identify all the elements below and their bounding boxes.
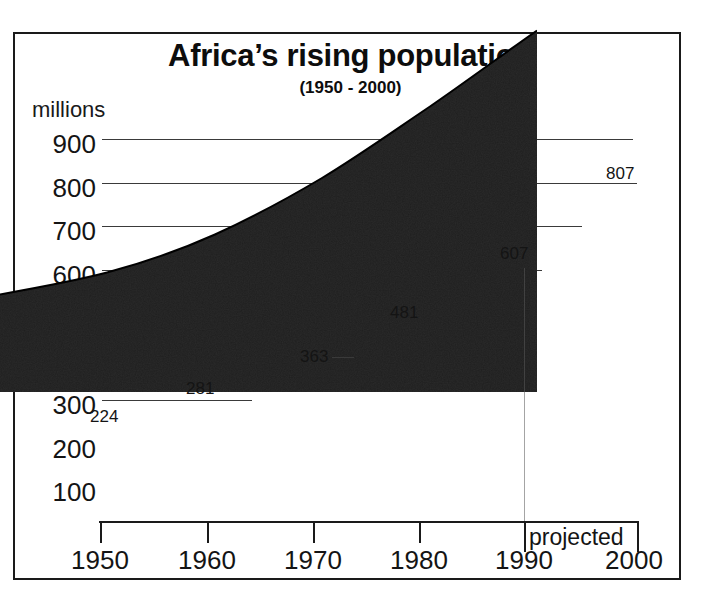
chart-figure: Africa’s rising population (1950 - 2000)… — [0, 0, 701, 602]
data-label-481: 481 — [390, 303, 418, 323]
x-tick-mark-1960 — [207, 523, 209, 543]
y-tick-label-100: 100 — [24, 477, 96, 508]
x-tick-mark-1950 — [100, 523, 102, 543]
data-label-807: 807 — [606, 164, 634, 184]
x-tick-mark-1980 — [419, 523, 421, 543]
data-label-363: 363 — [300, 347, 328, 367]
data-label-224: 224 — [90, 407, 118, 427]
population-area-series — [0, 0, 537, 392]
leader-line-363 — [332, 357, 354, 358]
x-tick-label-1990: 1990 — [464, 545, 584, 576]
y-tick-label-200: 200 — [24, 434, 96, 465]
x-tick-label-2000: 2000 — [574, 545, 694, 576]
area-grain-texture — [0, 31, 537, 393]
data-label-281: 281 — [186, 379, 214, 399]
data-label-607: 607 — [500, 244, 528, 264]
y-tick-label-300: 300 — [24, 390, 96, 421]
x-tick-label-1960: 1960 — [147, 545, 267, 576]
x-axis-baseline — [99, 521, 639, 523]
gridline-300 — [102, 400, 252, 401]
x-tick-mark-1970 — [313, 523, 315, 543]
x-tick-label-1970: 1970 — [253, 545, 373, 576]
x-tick-label-1980: 1980 — [359, 545, 479, 576]
area-series-svg — [0, 0, 537, 392]
x-tick-label-1950: 1950 — [40, 545, 160, 576]
projection-divider-line — [524, 268, 525, 522]
